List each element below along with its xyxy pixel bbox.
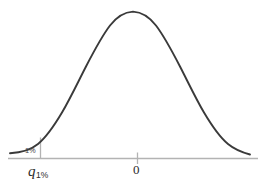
normal-curve-plot — [0, 0, 262, 189]
quantile-subscript: 1% — [36, 170, 48, 180]
quantile-axis-label: q1% — [28, 164, 48, 180]
center-axis-label: 0 — [133, 163, 140, 176]
normal-curve-figure: 1% q1% 0 — [0, 0, 262, 189]
quantile-symbol: q — [28, 163, 36, 179]
tail-area-label: 1% — [25, 147, 36, 155]
normal-density-curve — [10, 12, 250, 155]
